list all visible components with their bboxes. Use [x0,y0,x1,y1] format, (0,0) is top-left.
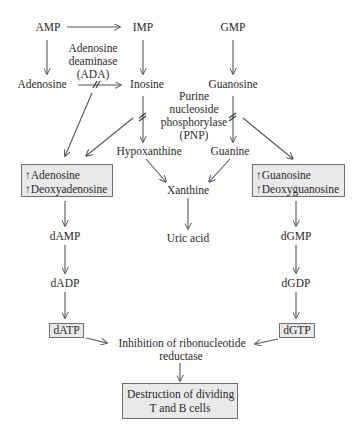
box-elevated-guanosine: ↑Guanosine ↑Deoxyguanosine [252,164,345,197]
node-xanthine: Xanthine [167,184,209,197]
arrow-ada-block-to-box [65,93,92,156]
destruction-line1: Destruction of dividing [127,387,233,401]
enzyme-pnp-line2: nucleoside [169,103,218,116]
purine-metabolism-diagram: AMP IMP GMP Adenosine deaminase (ADA) Ad… [0,0,360,428]
destruction-line2: T and B cells [127,401,233,415]
inhibition-line2: reductase [159,350,202,363]
node-guanine: Guanine [211,145,250,158]
arrow-guanine-xanthine [209,159,230,182]
enzyme-pnp-line1: Purine [179,90,209,103]
node-imp: IMP [133,21,153,34]
box-dgtp: dGTP [279,323,315,338]
enzyme-ada-line1: Adenosine [68,42,117,55]
box-left-line1: ↑Adenosine [25,168,109,182]
arrow-dgtp-inhibition [255,339,278,344]
box-destruction: Destruction of dividing T and B cells [122,383,238,419]
node-inosine: Inosine [130,78,164,91]
node-guanosine: Guanosine [208,78,257,91]
arrows-layer [0,0,360,428]
node-damp: dAMP [50,230,81,243]
enzyme-ada-line3: (ADA) [77,68,110,81]
arrow-pnp-guanosine-to-box [243,118,293,159]
enzyme-ada-line2: deaminase [69,55,118,68]
node-adenosine: Adenosine [17,78,66,91]
enzyme-pnp-line4: (PNP) [180,129,209,142]
node-datp: dATP [53,324,79,336]
node-dgtp: dGTP [283,324,310,336]
box-right-line1: ↑Guanosine [256,168,341,182]
node-gmp: GMP [221,21,246,34]
arrow-hypoxanthine-xanthine [146,159,166,182]
box-elevated-adenosine: ↑Adenosine ↑Deoxyadenosine [21,164,113,197]
inhibition-line1: Inhibition of ribonucleotide [118,337,245,350]
node-dgmp: dGMP [281,230,312,243]
arrow-datp-inhibition [86,338,107,343]
box-right-line2: ↑Deoxyguanosine [256,182,341,196]
node-dgdp: dGDP [282,277,311,290]
node-hypoxanthine: Hypoxanthine [116,145,181,158]
box-left-line2: ↑Deoxyadenosine [25,182,109,196]
node-dadp: dADP [51,277,80,290]
node-uric-acid: Uric acid [167,232,209,245]
node-amp: AMP [36,21,61,34]
enzyme-pnp-line3: phosphorylase [161,116,227,129]
box-datp: dATP [49,323,84,338]
